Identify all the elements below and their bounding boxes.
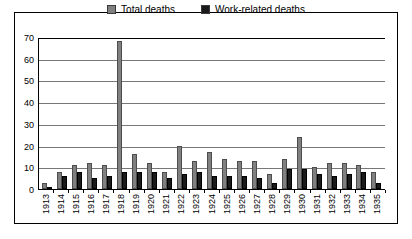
bar-group (204, 38, 219, 189)
bar-group (279, 38, 294, 189)
bar-group (309, 38, 324, 189)
plot-area (38, 38, 385, 190)
y-tick-label-0: 0 (10, 186, 34, 195)
bar-group (234, 38, 249, 189)
bar-group (369, 38, 384, 189)
x-tick-label-1914: 1914 (57, 194, 66, 214)
legend-label-total-deaths: Total deaths (121, 4, 175, 15)
work-related-deaths-swatch-icon (201, 5, 210, 14)
x-tick-mark (129, 190, 130, 193)
x-tick-mark (174, 190, 175, 193)
x-tick-mark (204, 190, 205, 193)
bar-group (324, 38, 339, 189)
bar-group (354, 38, 369, 189)
y-tick-label-20: 20 (10, 143, 34, 152)
x-tick-label-1921: 1921 (162, 194, 171, 214)
x-tick-label-1923: 1923 (192, 194, 201, 214)
bar-work-related-deaths-1919 (137, 172, 142, 189)
bar-work-related-deaths-1932 (332, 176, 337, 189)
bar-work-related-deaths-1930 (302, 169, 307, 189)
x-tick-label-1935: 1935 (373, 194, 382, 214)
x-tick-mark (159, 190, 160, 193)
bar-group (70, 38, 85, 189)
x-tick-mark (83, 190, 84, 193)
y-tick-label-10: 10 (10, 164, 34, 173)
x-tick-label-1930: 1930 (298, 194, 307, 214)
bar-group (115, 38, 130, 189)
bar-group (40, 38, 55, 189)
x-tick-label-1919: 1919 (132, 194, 141, 214)
legend-label-work-related-deaths: Work-related deaths (215, 4, 305, 15)
x-tick-mark (264, 190, 265, 193)
x-tick-mark (189, 190, 190, 193)
x-tick-mark (340, 190, 341, 193)
y-tick-label-50: 50 (10, 77, 34, 86)
y-tick-label-30: 30 (10, 121, 34, 130)
bar-work-related-deaths-1913 (47, 187, 52, 189)
y-tick-label-60: 60 (10, 56, 34, 65)
x-tick-label-1922: 1922 (177, 194, 186, 214)
x-tick-label-1917: 1917 (102, 194, 111, 214)
x-tick-label-1918: 1918 (117, 194, 126, 214)
total-deaths-swatch-icon (107, 5, 116, 14)
bar-work-related-deaths-1914 (62, 176, 67, 189)
bar-work-related-deaths-1927 (257, 178, 262, 189)
x-tick-mark (370, 190, 371, 193)
x-tick-label-1927: 1927 (253, 194, 262, 214)
chart-screenshot: Total deaths Work-related deaths 7060504… (0, 0, 412, 239)
x-tick-label-1931: 1931 (313, 194, 322, 214)
bar-total-deaths-1918 (117, 41, 122, 189)
x-tick-mark (234, 190, 235, 193)
bar-group (175, 38, 190, 189)
bar-group (85, 38, 100, 189)
x-tick-mark (113, 190, 114, 193)
bar-groups (39, 38, 385, 189)
bar-work-related-deaths-1928 (272, 183, 277, 190)
y-tick-label-70: 70 (10, 34, 34, 43)
legend-item-work-related-deaths: Work-related deaths (201, 4, 305, 15)
x-tick-mark (355, 190, 356, 193)
x-tick-mark (68, 190, 69, 193)
bar-work-related-deaths-1918 (122, 172, 127, 189)
x-tick-label-1925: 1925 (223, 194, 232, 214)
bar-group (55, 38, 70, 189)
x-tick-mark (279, 190, 280, 193)
bar-work-related-deaths-1935 (376, 183, 381, 190)
x-tick-label-1926: 1926 (238, 194, 247, 214)
x-tick-label-1916: 1916 (87, 194, 96, 214)
x-tick-mark (219, 190, 220, 193)
legend-item-total-deaths: Total deaths (107, 4, 175, 15)
x-tick-label-1915: 1915 (72, 194, 81, 214)
bar-work-related-deaths-1934 (361, 172, 366, 189)
x-tick-label-1920: 1920 (147, 194, 156, 214)
y-tick-label-40: 40 (10, 99, 34, 108)
x-tick-label-1929: 1929 (283, 194, 292, 214)
x-tick-label-1933: 1933 (343, 194, 352, 214)
x-tick-label-1913: 1913 (42, 194, 51, 214)
bar-work-related-deaths-1917 (107, 176, 112, 189)
bar-work-related-deaths-1925 (227, 176, 232, 189)
x-tick-label-1928: 1928 (268, 194, 277, 214)
y-axis-tick-labels: 706050403020100 (10, 38, 34, 190)
bar-group (100, 38, 115, 189)
bar-work-related-deaths-1923 (197, 172, 202, 189)
bar-group (339, 38, 354, 189)
bar-work-related-deaths-1920 (152, 172, 157, 189)
x-tick-mark (310, 190, 311, 193)
x-tick-mark (385, 190, 386, 193)
x-tick-mark (98, 190, 99, 193)
bar-group (130, 38, 145, 189)
x-tick-mark (294, 190, 295, 193)
x-tick-label-1932: 1932 (328, 194, 337, 214)
bar-work-related-deaths-1916 (92, 178, 97, 189)
bar-work-related-deaths-1922 (182, 174, 187, 189)
bar-group (145, 38, 160, 189)
x-tick-label-1934: 1934 (358, 194, 367, 214)
bar-work-related-deaths-1921 (167, 178, 172, 189)
bar-work-related-deaths-1929 (287, 169, 292, 189)
bar-work-related-deaths-1931 (317, 174, 322, 189)
bar-work-related-deaths-1915 (77, 172, 82, 189)
x-tick-mark (249, 190, 250, 193)
x-tick-mark (53, 190, 54, 193)
x-axis: 1913191419151916191719181919192019211922… (38, 190, 385, 236)
